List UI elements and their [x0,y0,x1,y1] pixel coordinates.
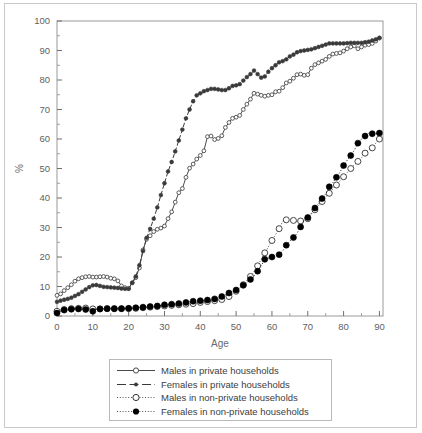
data-point [138,263,142,267]
x-tick-label: 20 [123,321,134,332]
data-point [333,174,339,180]
data-point [130,281,134,285]
data-point [183,299,189,305]
data-point [320,44,324,48]
data-point [299,49,303,53]
data-point [170,160,174,164]
data-point [324,43,328,47]
data-point [288,79,292,83]
data-point [91,283,95,287]
data-point [202,149,206,153]
data-point [283,217,289,223]
data-point [281,86,285,90]
data-point [245,102,249,106]
data-point [227,121,231,125]
data-point [155,206,159,210]
data-point [206,88,210,92]
data-point [77,292,81,296]
data-point [326,184,332,190]
y-tick-label: 40 [39,192,50,203]
chart-figure: 0102030405060708090100010203040506070809… [0,0,422,433]
data-point [118,306,124,312]
data-point [274,63,278,67]
data-point [55,300,59,304]
data-point [73,279,77,283]
data-point [276,226,282,232]
data-point [123,287,127,291]
data-point [313,46,317,50]
data-point [356,41,360,45]
data-point [355,140,361,146]
data-point [59,299,63,303]
data-point [148,227,152,231]
data-point [262,250,268,256]
legend-swatch-dashdot-filled-dot [116,378,156,391]
data-point [342,49,346,53]
y-tick-label: 80 [39,74,50,85]
data-point [184,116,188,120]
data-point [306,48,310,52]
data-point [212,296,218,302]
data-point [270,93,274,97]
series-males_private [55,36,381,297]
data-point [180,187,184,191]
data-point [127,287,131,291]
series-line-females_private [57,38,379,302]
data-point [341,174,347,180]
data-point [90,308,96,314]
tick-labels-group: 0102030405060708090100010203040506070809… [34,15,385,332]
data-point [95,283,99,287]
data-point [141,249,145,253]
data-point [73,294,77,298]
legend-swatch-dotted-filled-circle [116,405,156,418]
data-point [166,170,170,174]
x-tick-label: 60 [267,321,278,332]
data-point [112,286,116,290]
x-tick-label: 50 [231,321,242,332]
data-point [188,166,192,170]
y-axis-label: % [14,164,25,173]
data-point [195,93,199,97]
data-point [341,163,347,169]
data-point [255,268,261,274]
data-point [290,217,296,223]
data-point [360,41,364,45]
data-point [61,307,67,313]
data-point [306,73,310,77]
y-tick-label: 90 [39,45,50,56]
data-point [238,114,242,118]
data-point [116,279,120,283]
axes-group [57,21,383,316]
data-point [133,305,139,311]
data-point [266,70,270,74]
data-point [198,154,202,158]
data-point [190,298,196,304]
data-point [98,284,102,288]
data-point [202,89,206,93]
data-point [312,205,318,211]
data-point [69,296,73,300]
data-point [277,89,281,93]
data-point [197,298,203,304]
data-point [284,57,288,61]
data-point [84,288,88,292]
data-point [226,290,232,296]
data-point [252,69,256,73]
y-tick-label: 50 [39,163,50,174]
legend-label-females-nonprivate: Females in non-private households [161,405,309,418]
legend-label-males-nonprivate: Males in non-private households [161,391,298,404]
data-point [262,256,268,262]
data-point [370,39,374,43]
data-point [298,218,304,224]
data-point [302,49,306,53]
legend-item-females-private: Females in private households [110,378,331,392]
data-point [352,41,356,45]
data-point [195,157,199,161]
data-point [277,60,281,64]
data-point [68,306,74,312]
y-tick-label: 70 [39,104,50,115]
data-point [269,254,275,260]
series-females_private [55,36,381,304]
legend-item-females-nonprivate: Females in non-private households [110,405,331,419]
data-point [256,72,260,76]
